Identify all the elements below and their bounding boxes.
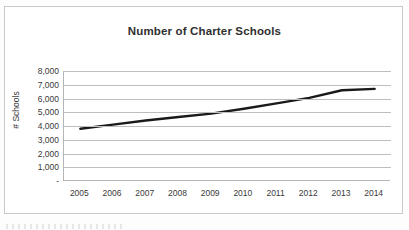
y-axis-tick-label: 6,000 — [19, 95, 59, 103]
gridline — [64, 167, 391, 168]
gridline — [64, 99, 391, 100]
gridline — [64, 85, 391, 86]
chart-title: Number of Charter Schools — [5, 25, 404, 37]
chart-frame: Number of Charter Schools # Schools -1,0… — [4, 6, 403, 214]
y-axis-tick-label: 5,000 — [19, 108, 59, 116]
gridline — [64, 112, 391, 113]
y-axis-tick-label: - — [19, 177, 59, 185]
series-line-number-of-charter-schools — [80, 89, 374, 129]
y-axis-tick-label: 8,000 — [19, 67, 59, 75]
y-axis-tick-label: 7,000 — [19, 81, 59, 89]
y-axis-tick-label: 1,000 — [19, 163, 59, 171]
gridline — [64, 71, 391, 72]
x-axis-tick-label: 2014 — [354, 188, 394, 198]
y-axis-tick-label: 3,000 — [19, 136, 59, 144]
x-axis-tick-labels: 2005200620072008200920102011201220132014 — [63, 188, 390, 202]
chart-page: Number of Charter Schools # Schools -1,0… — [0, 0, 409, 230]
y-axis-tick-label: 4,000 — [19, 122, 59, 130]
scan-artifact — [6, 224, 126, 229]
gridline — [64, 140, 391, 141]
gridline — [64, 126, 391, 127]
y-axis-tick-label: 2,000 — [19, 150, 59, 158]
y-axis-tick-labels: -1,0002,0003,0004,0005,0006,0007,0008,00… — [19, 65, 59, 181]
plot-area — [63, 71, 390, 181]
gridline — [64, 154, 391, 155]
